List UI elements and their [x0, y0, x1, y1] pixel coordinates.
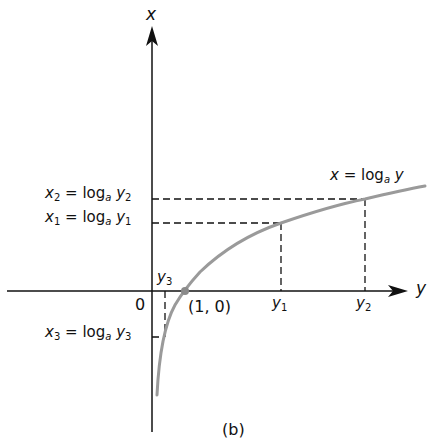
- x3-base: a: [105, 331, 111, 342]
- x2-arg: y: [116, 184, 125, 202]
- x3-sub: 3: [54, 331, 60, 342]
- y1-var: y: [272, 294, 281, 312]
- point-label-1-0: (1, 0): [188, 299, 231, 315]
- x3-op: = log: [65, 323, 105, 341]
- figure-caption: (b): [222, 422, 245, 438]
- curve-label-op: = log: [344, 166, 384, 184]
- annotation-y2: y2: [356, 296, 371, 311]
- annotation-y1: y1: [272, 296, 287, 311]
- x1-base: a: [105, 216, 111, 227]
- x1-arg-sub: 1: [125, 216, 131, 227]
- point-1-0: [181, 287, 189, 295]
- axis-label-y: y: [416, 280, 426, 297]
- curve-label-lhs: x: [330, 166, 339, 184]
- x1-sub: 1: [54, 216, 60, 227]
- annotation-x1: x1 = loga y1: [45, 210, 131, 225]
- annotation-x3: x3 = loga y3: [45, 325, 131, 340]
- x2-arg-sub: 2: [125, 192, 131, 203]
- y3-var: y: [157, 268, 166, 286]
- y3-sub: 3: [166, 276, 172, 287]
- curve-label-base: a: [384, 174, 390, 185]
- x2-var: x: [45, 184, 54, 202]
- x3-var: x: [45, 323, 54, 341]
- x1-op: = log: [65, 208, 105, 226]
- axis-label-x: x: [146, 6, 156, 23]
- annotation-y3: y3: [157, 270, 172, 285]
- y2-sub: 2: [365, 302, 371, 313]
- x2-base: a: [105, 192, 111, 203]
- x2-sub: 2: [54, 192, 60, 203]
- x1-arg: y: [116, 208, 125, 226]
- y1-sub: 1: [281, 302, 287, 313]
- x2-op: = log: [65, 184, 105, 202]
- curve-label: x = loga y: [330, 168, 404, 183]
- curve-label-arg: y: [395, 166, 404, 184]
- x3-arg-sub: 3: [125, 331, 131, 342]
- x3-arg: y: [116, 323, 125, 341]
- annotation-x2: x2 = loga y2: [45, 186, 131, 201]
- x1-var: x: [45, 208, 54, 226]
- origin-label: 0: [135, 297, 145, 313]
- y2-var: y: [356, 294, 365, 312]
